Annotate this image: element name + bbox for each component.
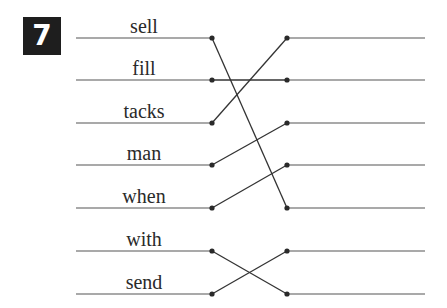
connector-line <box>212 123 287 165</box>
left-dot[interactable] <box>209 77 214 82</box>
left-dot[interactable] <box>209 120 214 125</box>
left-dot[interactable] <box>209 205 214 210</box>
right-dot[interactable] <box>284 77 289 82</box>
left-dot[interactable] <box>209 162 214 167</box>
right-dot[interactable] <box>284 120 289 125</box>
right-dot[interactable] <box>284 35 289 40</box>
connector-line <box>212 38 287 208</box>
matching-diagram <box>0 0 447 308</box>
left-dot[interactable] <box>209 248 214 253</box>
right-dot[interactable] <box>284 291 289 296</box>
left-dot[interactable] <box>209 291 214 296</box>
right-dot[interactable] <box>284 205 289 210</box>
right-dot[interactable] <box>284 162 289 167</box>
right-dot[interactable] <box>284 248 289 253</box>
left-dot[interactable] <box>209 35 214 40</box>
connector-line <box>212 165 287 208</box>
